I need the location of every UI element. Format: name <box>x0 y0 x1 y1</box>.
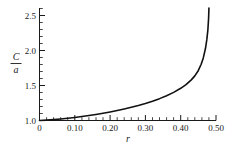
y-tick-label-1.5: 1.5 <box>25 81 37 91</box>
y-axis-title-numerator: C <box>13 51 20 62</box>
data-series-curve <box>40 8 209 121</box>
y-tick-label-2.0: 2.0 <box>25 46 37 56</box>
x-tick-label-0: 0 <box>37 123 42 133</box>
y-axis-title: C a <box>11 51 22 75</box>
y-axis-group: 1.0 1.5 2.0 2.5 <box>25 8 45 126</box>
x-tick-label-0.30: 0.30 <box>138 123 154 133</box>
y-tick-label-2.5: 2.5 <box>25 11 37 21</box>
chart-figure: 1.0 1.5 2.0 2.5 C a <box>0 0 229 145</box>
plot-area: 1.0 1.5 2.0 2.5 C a <box>0 0 229 145</box>
x-tick-label-0.20: 0.20 <box>102 123 118 133</box>
x-tick-label-0.50: 0.50 <box>208 123 224 133</box>
x-axis-title: r <box>126 133 130 144</box>
x-tick-label-0.10: 0.10 <box>67 123 83 133</box>
x-tick-label-0.40: 0.40 <box>173 123 189 133</box>
y-tick-label-1.0: 1.0 <box>25 116 37 126</box>
y-axis-title-denominator: a <box>14 64 19 75</box>
